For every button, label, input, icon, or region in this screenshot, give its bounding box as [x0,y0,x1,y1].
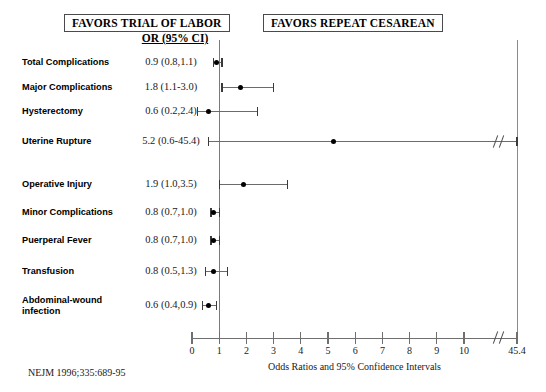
row-label-line: infection [22,306,134,317]
source-citation: NEJM 1996;335:689-95 [28,367,126,378]
row-label-line: Puerperal Fever [22,235,134,246]
row-label-line: Hysterectomy [22,106,134,117]
row-label: Abdominal-woundinfection [22,295,134,316]
row-label-line: Major Complications [22,82,134,93]
legend-favors-trial-of-labor: FAVORS TRIAL OF LABOR [64,14,230,32]
point-estimate-marker [238,85,243,90]
confidence-interval-bar [219,184,287,185]
x-axis-tick [300,332,301,344]
row-label: Transfusion [22,266,134,277]
confidence-interval-cap-high [273,83,274,92]
confidence-interval-cap-high [216,301,217,310]
x-axis-tick-label: 45.4 [508,345,526,356]
row-label: Total Complications [22,57,134,68]
legend-favors-repeat-cesarean: FAVORS REPEAT CESAREAN [263,14,443,32]
odds-ratio-value: 0.6 (0.2,2.4) [128,105,214,116]
odds-ratio-value: 0.8 (0.5,1.3) [128,265,214,276]
forest-plot-figure: FAVORS TRIAL OF LABOR FAVORS REPEAT CESA… [0,0,546,392]
odds-ratio-value: 0.6 (0.4,0.9) [128,299,214,310]
confidence-interval-cap-high [257,107,258,116]
row-label: Major Complications [22,82,134,93]
x-axis-tick-label: 1 [217,345,222,356]
x-axis-tick [327,332,328,344]
confidence-interval-bar [208,141,517,142]
x-axis-tick-label: 3 [271,345,276,356]
confidence-interval-cap-high [516,137,517,146]
x-axis-tick-label: 6 [353,345,358,356]
row-label-line: Minor Complications [22,207,134,218]
x-axis-tick [409,332,410,344]
odds-ratio-value: 1.8 (1.1-3.0) [128,81,214,92]
x-axis-title: Odds Ratios and 95% Confidence Intervals [192,361,517,372]
point-estimate-marker [331,139,336,144]
row-label: Puerperal Fever [22,235,134,246]
x-axis-tick [219,332,220,344]
axis-break-mark [499,135,505,148]
row-label: Uterine Rupture [22,136,134,147]
row-label: Operative Injury [22,179,134,190]
axis-break-mark [493,135,499,148]
odds-ratio-value: 0.9 (0.8,1.1) [128,56,214,67]
or-column-header: OR (95% CI) [125,32,225,44]
confidence-interval-bar [222,87,274,88]
x-axis-tick-label: 2 [244,345,249,356]
x-axis-tick [355,332,356,344]
confidence-interval-cap-high [227,267,228,276]
x-axis-tick [436,332,437,344]
confidence-interval-cap-high [219,236,220,245]
x-axis-tick [463,332,464,344]
confidence-interval-cap-low [219,180,220,189]
row-label: Hysterectomy [22,106,134,117]
x-axis-tick-label: 10 [459,345,469,356]
row-label: Minor Complications [22,207,134,218]
x-axis-tick-label: 9 [434,345,439,356]
row-label-line: Transfusion [22,266,134,277]
x-axis-tick-label: 5 [326,345,331,356]
confidence-interval-cap-low [221,83,222,92]
x-axis-tick [273,332,274,344]
x-axis-tick-label: 8 [407,345,412,356]
x-axis-tick-label: 4 [298,345,303,356]
row-label-line: Total Complications [22,57,134,68]
x-axis-tick [191,332,192,344]
x-axis-tick [516,332,517,344]
confidence-interval-bar [214,62,222,63]
row-label-line: Abdominal-wound [22,295,134,306]
x-axis-tick-label: 7 [380,345,385,356]
odds-ratio-value: 5.2 (0.6-45.4) [128,135,214,146]
x-axis-tick [382,332,383,344]
reference-line-or-1 [219,40,220,338]
x-axis-tick [246,332,247,344]
confidence-interval-cap-high [287,180,288,189]
point-estimate-marker [214,60,219,65]
point-estimate-marker [241,182,246,187]
row-label-line: Uterine Rupture [22,136,134,147]
row-label-line: Operative Injury [22,179,134,190]
confidence-interval-cap-high [219,208,220,217]
odds-ratio-value: 0.8 (0.7,1.0) [128,234,214,245]
x-axis-tick-label: 0 [190,345,195,356]
odds-ratio-value: 0.8 (0.7,1.0) [128,206,214,217]
confidence-interval-cap-high [221,58,222,67]
plot-right-border [517,40,518,338]
odds-ratio-value: 1.9 (1.0,3.5) [128,178,214,189]
